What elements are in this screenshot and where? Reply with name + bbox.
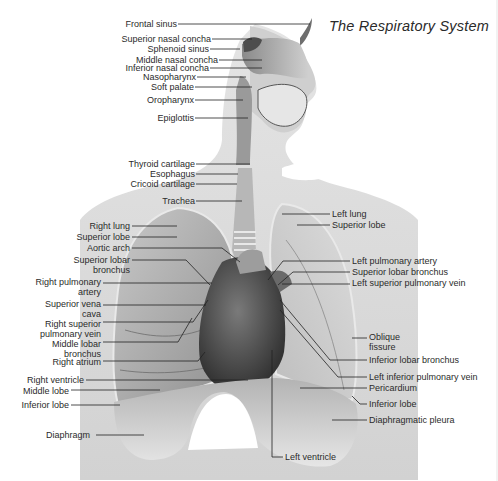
label-inferior-lobe-right: Inferior lobe xyxy=(0,401,69,411)
label-cricoid-cartilage: Cricoid cartilage xyxy=(0,180,195,190)
label-middle-lobe: Middle lobe xyxy=(0,387,69,397)
label-right-lung: Right lung xyxy=(0,222,130,232)
label-superior-vena-cava: Superior venacava xyxy=(0,300,101,319)
label-pericardium: Pericardium xyxy=(369,384,417,394)
label-diaphragm: Diaphragm xyxy=(0,431,90,441)
respiratory-diagram: The Respiratory System Frontal sinusSupe… xyxy=(0,0,498,481)
label-superior-lobe-right: Superior lobe xyxy=(0,233,130,243)
label-left-pulmonary-artery: Left pulmonary artery xyxy=(352,257,437,267)
label-sphenoid-sinus: Sphenoid sinus xyxy=(0,45,209,55)
label-frontal-sinus: Frontal sinus xyxy=(0,20,177,30)
label-right-pulmonary-artery: Right pulmonaryartery xyxy=(0,278,101,297)
label-superior-lobar-bronchus-left: Superior lobar bronchus xyxy=(352,268,448,278)
label-inferior-lobar-bronchus: Inferior lobar bronchus xyxy=(369,356,459,366)
label-soft-palate: Soft palate xyxy=(0,83,194,93)
label-left-ventricle: Left ventricle xyxy=(285,453,336,463)
label-superior-lobar-bronchus-right: Superior lobarbronchus xyxy=(0,256,130,275)
label-epiglottis: Epiglottis xyxy=(0,114,194,124)
label-superior-lobe-left: Superior lobe xyxy=(332,221,386,231)
label-left-superior-pulmonary-vein: Left superior pulmonary vein xyxy=(352,279,466,289)
label-left-inferior-pulmonary-vein: Left inferior pulmonary vein xyxy=(369,373,478,383)
label-inferior-lobe-left: Inferior lobe xyxy=(369,400,417,410)
label-right-ventricle: Right ventricle xyxy=(0,376,84,386)
label-aortic-arch: Aortic arch xyxy=(0,244,130,254)
label-oblique-fissure: Obliquefissure xyxy=(369,333,400,352)
label-oropharynx: Oropharynx xyxy=(0,96,194,106)
label-trachea: Trachea xyxy=(0,197,195,207)
label-left-lung: Left lung xyxy=(332,210,367,220)
label-right-atrium: Right atrium xyxy=(0,358,101,368)
label-diaphragmatic-pleura: Diaphragmatic pleura xyxy=(369,416,455,426)
label-right-superior-pulmonary-vein: Right superiorpulmonary vein xyxy=(0,320,101,339)
diagram-title: The Respiratory System xyxy=(329,18,489,34)
